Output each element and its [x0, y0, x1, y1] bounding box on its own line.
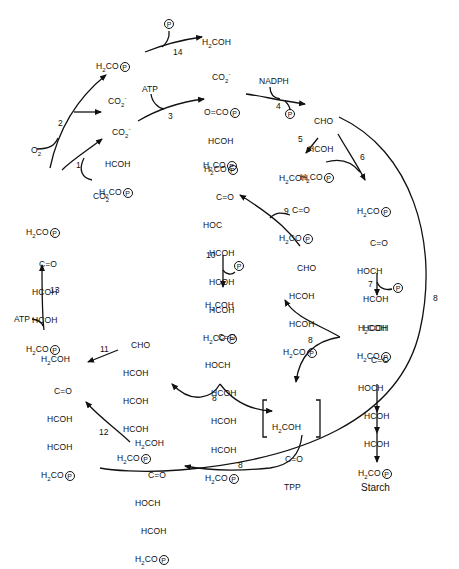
step-8-label-right: 8 [433, 293, 438, 303]
step-4-label: 4 [276, 101, 281, 111]
phosphate-icon: P [120, 62, 130, 72]
compound-glycolate: H2COH CO2- [202, 19, 231, 95]
phosphate-icon: P [229, 474, 239, 484]
phosphate-icon: P [234, 261, 244, 271]
step-10-label: 10 [206, 250, 215, 260]
phosphate-icon: P [307, 348, 317, 358]
o2-cofactor: O2 [31, 145, 41, 157]
step-9-label: 9 [284, 206, 289, 216]
step-11-label: 11 [100, 344, 109, 354]
step-14-label: 14 [173, 47, 182, 57]
compound-erythrose-4-phosphate: CHO HCOH HCOH H2COP [283, 245, 317, 371]
compound-ribulose-1-5-bisphosphate: H2COP C=O HCOH HCOH H2COP [26, 209, 60, 367]
step-5-label: 5 [298, 134, 303, 144]
phosphate-icon: P [123, 188, 133, 198]
phosphate-icon: P [303, 234, 313, 244]
step-2-label: 2 [58, 118, 63, 128]
compound-xylulose-5-phosphate: H2COH C=O HOCH HCOH H2COP [135, 420, 169, 569]
phosphate-release-10: P [233, 260, 244, 271]
compound-sedoheptulose-7-phosphate: H2COH C=O HOCH HCOH HCOH HCOH H2COP [205, 282, 239, 497]
step-12-label: 12 [99, 427, 108, 437]
phosphate-icon: P [393, 283, 403, 293]
phosphate-release-14: P [163, 18, 174, 29]
phosphate-icon: P [159, 555, 169, 565]
phosphate-icon: P [285, 109, 295, 119]
phosphate-icon: P [50, 228, 60, 238]
phosphate-icon: P [164, 19, 174, 29]
compound-fructose-6-phosphate: H2COH C=O HOCH HCOH HCOH H2COP [358, 305, 392, 491]
phosphate-icon: P [230, 108, 240, 118]
atp-cofactor-3: ATP [142, 84, 158, 94]
phosphate-icon: P [324, 173, 334, 183]
phosphate-icon: P [227, 161, 237, 171]
step-3-label: 3 [168, 111, 173, 121]
step-1-label: 1 [76, 160, 81, 170]
co2-cofactor: CO2 [93, 191, 109, 203]
phosphate-icon: P [381, 207, 391, 217]
phosphate-icon: P [382, 469, 392, 479]
step-7-label: 7 [368, 279, 373, 289]
nadph-cofactor: NADPH [259, 76, 289, 86]
compound-glycolaldehyde-tpp-intermediate: H2COH C=O TPP [272, 404, 303, 502]
step-8-label-f6p: 8 [308, 335, 313, 345]
step-6-label: 6 [360, 152, 365, 162]
product-starch: Starch [361, 482, 390, 493]
phosphate-release-4: P [284, 108, 295, 119]
step-8-label-bottom: 8 [238, 460, 243, 470]
phosphate-icon: P [50, 345, 60, 355]
phosphate-release-7: P [392, 282, 403, 293]
step-8-label-s7p: 8 [212, 393, 217, 403]
phosphate-icon: P [65, 471, 75, 481]
